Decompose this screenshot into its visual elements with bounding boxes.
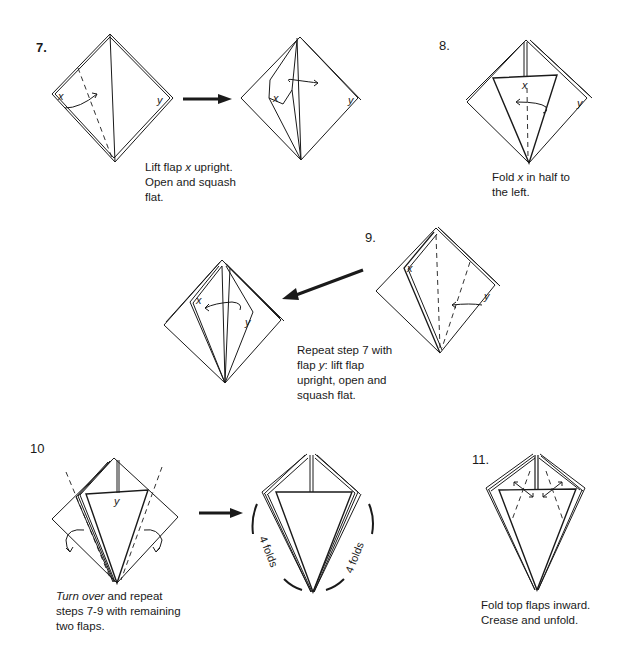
step-11-diagram	[486, 454, 585, 590]
flap-x-label: x	[521, 79, 528, 91]
step-10-number: 10	[30, 441, 44, 456]
step-10-arrow-icon	[199, 508, 243, 518]
step-10-diagram-after: 4 folds 4 folds	[253, 454, 374, 592]
diagram-canvas: x y x y x y	[0, 0, 626, 667]
flap-x-label: x	[272, 92, 279, 104]
step-11-caption: Fold top flaps inward. Crease and unfold…	[481, 598, 626, 628]
flap-x-label: x	[195, 294, 202, 306]
step-7-diagram-after: x y	[241, 37, 361, 160]
flap-x-label: x	[406, 262, 413, 274]
left-folds-label: 4 folds	[257, 534, 280, 569]
step-9-diagram-before: x y	[376, 227, 500, 353]
step-9-diagram-after: x y	[164, 260, 284, 383]
flap-y-label: y	[156, 94, 164, 106]
step-9-number: 9.	[365, 230, 376, 245]
step-9-arrow-icon	[282, 270, 363, 300]
flap-y-label: y	[347, 94, 355, 106]
flap-x-label: x	[57, 90, 64, 102]
step-8-caption: Fold x in half to the left.	[492, 170, 622, 200]
step-10-caption: Turn over and repeat steps 7-9 with rema…	[56, 589, 246, 634]
step-7-caption: Lift flap x upright. Open and squash fla…	[145, 160, 295, 205]
right-folds-label: 4 folds	[343, 540, 366, 575]
step-7-arrow-icon	[183, 94, 232, 104]
step-11-number: 11.	[472, 452, 489, 467]
step-8-diagram: x y	[466, 40, 592, 163]
step-10-diagram-before: y	[52, 458, 178, 583]
flap-y-label: y	[113, 495, 121, 507]
step-8-number: 8.	[439, 38, 450, 53]
step-9-caption: Repeat step 7 with flap y: lift flap upr…	[297, 343, 437, 403]
step-7-diagram-before: x y	[52, 34, 173, 162]
